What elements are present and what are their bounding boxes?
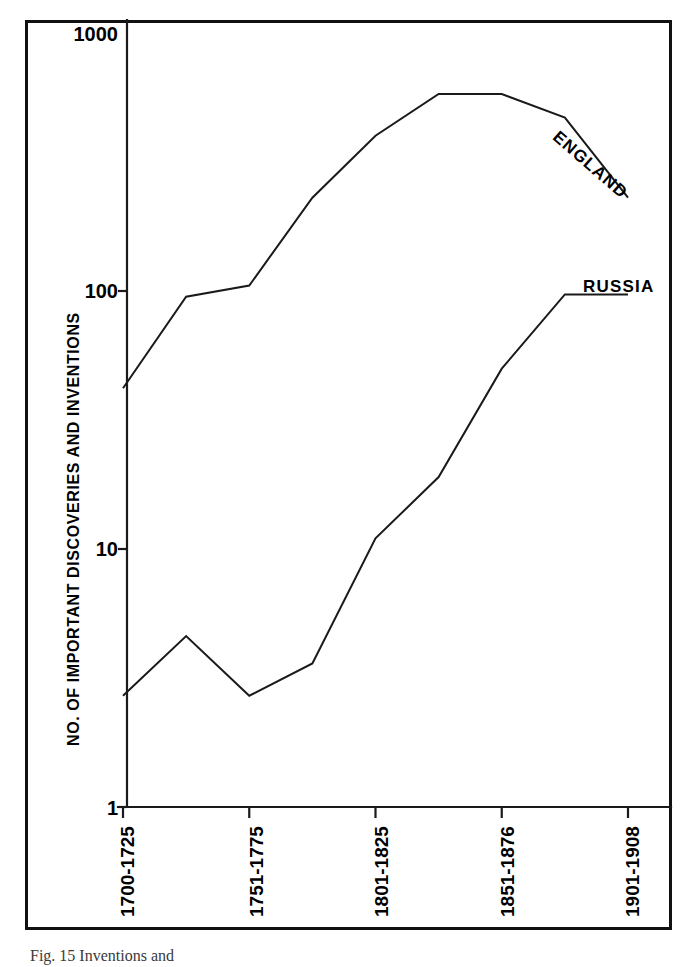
figure-caption: Fig. 15 Inventions and xyxy=(30,948,174,966)
ytick-label-1: 1 xyxy=(56,798,118,818)
xtick-label-1901-1908: 1901-1908 xyxy=(623,826,642,917)
xtick-label-1851-1876: 1851-1876 xyxy=(498,826,517,917)
figure-container: 1000 100 10 1 NO. OF IMPORTANT DISCOVERI… xyxy=(0,0,686,967)
y-axis-label: NO. OF IMPORTANT DISCOVERIES AND INVENTI… xyxy=(66,312,82,746)
ytick-label-100: 100 xyxy=(56,281,118,301)
xtick-label-1751-1775: 1751-1775 xyxy=(247,826,266,917)
xtick-label-1700-1725: 1700-1725 xyxy=(118,826,137,917)
series-label-russia: RUSSIA xyxy=(583,278,654,295)
xtick-label-1801-1825: 1801-1825 xyxy=(372,826,391,917)
ytick-label-1000: 1000 xyxy=(56,24,118,44)
